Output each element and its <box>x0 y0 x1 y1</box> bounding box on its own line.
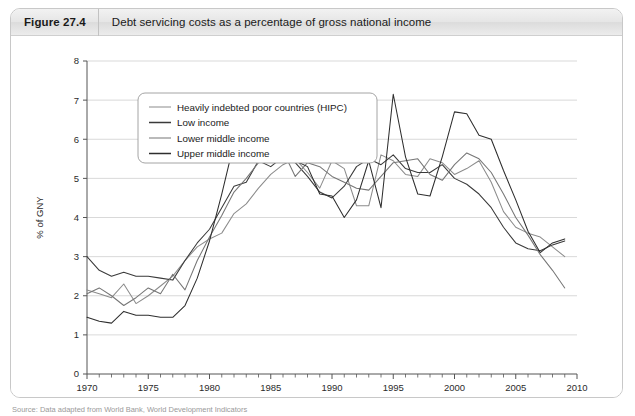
series-line-0 <box>87 155 565 304</box>
x-tick-label: 1980 <box>199 382 220 393</box>
figure-title: Debt servicing costs as a percentage of … <box>112 16 431 28</box>
x-tick-label: 2010 <box>566 382 587 393</box>
y-tick-label: 0 <box>74 368 79 379</box>
legend-label-1: Low income <box>177 117 230 128</box>
line-chart-svg: 0123456781970197519801985199019952000200… <box>11 36 623 398</box>
y-tick-label: 3 <box>74 251 79 262</box>
x-tick-label: 1990 <box>321 382 342 393</box>
source-caption: Source: Data adapted from World Bank, Wo… <box>12 404 622 416</box>
y-tick-label: 8 <box>74 55 79 66</box>
figure-header: Figure 27.4 Debt servicing costs as a pe… <box>11 9 623 36</box>
x-tick-label: 1970 <box>76 382 97 393</box>
y-tick-label: 2 <box>74 290 79 301</box>
y-tick-label: 5 <box>74 173 79 184</box>
y-tick-label: 4 <box>74 212 79 223</box>
x-tick-label: 2005 <box>505 382 526 393</box>
series-line-2 <box>87 141 565 305</box>
chart-plot-area: 0123456781970197519801985199019952000200… <box>11 36 623 398</box>
figure-number-badge: Figure 27.4 <box>24 16 86 28</box>
y-tick-label: 6 <box>74 134 79 145</box>
y-tick-label: 7 <box>74 95 79 106</box>
x-tick-label: 1995 <box>383 382 404 393</box>
y-axis-title: % of GNY <box>34 196 45 239</box>
legend-label-2: Lower middle income <box>177 133 270 144</box>
x-tick-label: 1985 <box>260 382 281 393</box>
x-tick-label: 2000 <box>444 382 465 393</box>
y-tick-label: 1 <box>74 329 79 340</box>
legend-label-0: Heavily indebted poor countries (HIPC) <box>177 102 347 113</box>
figure-card: Figure 27.4 Debt servicing costs as a pe… <box>10 8 623 398</box>
header-divider <box>98 9 99 36</box>
legend-label-3: Upper middle income <box>177 148 270 159</box>
x-tick-label: 1975 <box>138 382 159 393</box>
